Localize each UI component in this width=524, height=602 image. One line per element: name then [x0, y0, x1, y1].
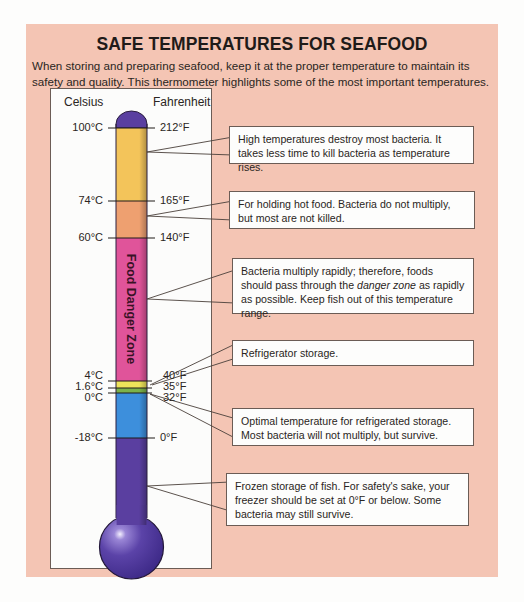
tick-celsius-74: 74°C: [43, 194, 103, 206]
callout-text: Optimal temperature for refrigerated sto…: [241, 415, 451, 441]
callout-frozen-storage: Frozen storage of fish. For safety's sak…: [226, 473, 469, 526]
danger-zone-label: Food Danger Zone: [124, 254, 138, 364]
callout-optimal-refrigerated: Optimal temperature for refrigerated sto…: [232, 408, 474, 446]
tick-celsius-100: 100°C: [43, 121, 103, 133]
tick-fahrenheit-165: 165°F: [160, 194, 189, 206]
callout-text: For holding hot food. Bacteria do not mu…: [238, 198, 450, 224]
callout-text: Refrigerator storage.: [241, 347, 338, 359]
tick-fahrenheit-212: 212°F: [160, 121, 189, 133]
tick-fahrenheit-0: 0°F: [160, 431, 177, 443]
tick-celsius-minus-18: -18°C: [43, 431, 103, 443]
tick-celsius-60: 60°C: [43, 231, 103, 243]
tick-fahrenheit-140: 140°F: [160, 231, 189, 243]
callout-text: Frozen storage of fish. For safety's sak…: [235, 480, 450, 520]
tick-fahrenheit-32: 32°F: [163, 391, 186, 403]
callout-emphasis: danger zone: [357, 279, 416, 291]
callout-hot-holding: For holding hot food. Bacteria do not mu…: [229, 191, 475, 229]
tick-celsius-0: 0°C: [43, 391, 103, 403]
callout-high-temperatures: High temperatures destroy most bacteria.…: [229, 126, 474, 164]
callout-refrigerator: Refrigerator storage.: [232, 340, 474, 366]
callout-danger-zone: Bacteria multiply rapidly; therefore, fo…: [232, 258, 474, 314]
